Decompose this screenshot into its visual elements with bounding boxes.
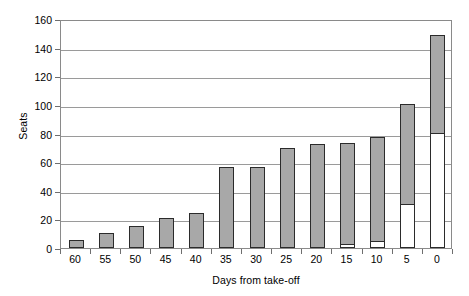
y-tick-label: 60 (6, 158, 52, 168)
y-tick-label: 140 (6, 44, 52, 54)
bar-30 (250, 19, 265, 248)
y-tick-mark (55, 106, 60, 107)
bar-55 (99, 19, 114, 248)
bar-25 (280, 19, 295, 248)
y-tick-label: 100 (6, 101, 52, 111)
bar-35 (219, 19, 234, 248)
x-tick-mark (452, 249, 453, 254)
x-tick-mark (120, 249, 121, 254)
bar-20 (310, 19, 325, 248)
x-tick-mark (90, 249, 91, 254)
y-tick-mark (55, 135, 60, 136)
bar-segment-upper-filled-segment (129, 226, 144, 248)
y-tick-mark (55, 77, 60, 78)
x-tick-mark (422, 249, 423, 254)
y-tick-label: 120 (6, 72, 52, 82)
x-tick-mark (150, 249, 151, 254)
bar-segment-upper-filled-segment (69, 240, 84, 248)
y-tick-mark (55, 220, 60, 221)
bar-segment-lower-open-segment (370, 241, 385, 248)
x-tick-mark (362, 249, 363, 254)
y-tick-label: 20 (6, 215, 52, 225)
x-tick-mark (271, 249, 272, 254)
bar-40 (189, 19, 204, 248)
bar-segment-upper-filled-segment (99, 233, 114, 248)
x-tick-mark (241, 249, 242, 254)
y-tick-mark (55, 192, 60, 193)
bar-segment-upper-filled-segment (159, 218, 174, 248)
bar-segment-upper-filled-segment (219, 167, 234, 248)
bar-15 (340, 19, 355, 248)
plot-area (60, 20, 452, 249)
bar-60 (69, 19, 84, 248)
x-tick-mark (211, 249, 212, 254)
y-tick-mark (55, 49, 60, 50)
bar-segment-upper-filled-segment (280, 148, 295, 248)
x-tick-mark (331, 249, 332, 254)
bar-segment-upper-filled-segment (340, 143, 355, 246)
x-tick-label: 0 (417, 254, 457, 265)
bar-50 (129, 19, 144, 248)
bar-segment-upper-filled-segment (430, 35, 445, 133)
y-tick-label: 160 (6, 15, 52, 25)
bar-segment-upper-filled-segment (310, 144, 325, 248)
bar-segment-lower-open-segment (430, 133, 445, 249)
x-axis-title: Days from take-off (60, 274, 452, 286)
bar-segment-upper-filled-segment (189, 213, 204, 248)
x-tick-mark (301, 249, 302, 254)
bar-segment-upper-filled-segment (250, 167, 265, 248)
bar-5 (400, 19, 415, 248)
bar-segment-upper-filled-segment (400, 104, 415, 205)
x-tick-mark (60, 249, 61, 254)
y-tick-label: 40 (6, 187, 52, 197)
x-tick-mark (181, 249, 182, 254)
bar-10 (370, 19, 385, 248)
y-tick-mark (55, 163, 60, 164)
bar-chart: Seats 020406080100120140160 605550454035… (0, 0, 469, 296)
y-tick-label: 0 (6, 244, 52, 254)
bar-45 (159, 19, 174, 248)
bar-0 (430, 19, 445, 248)
bar-segment-upper-filled-segment (370, 137, 385, 242)
y-tick-mark (55, 20, 60, 21)
bar-segment-lower-open-segment (400, 204, 415, 248)
y-tick-label: 80 (6, 130, 52, 140)
x-tick-mark (392, 249, 393, 254)
